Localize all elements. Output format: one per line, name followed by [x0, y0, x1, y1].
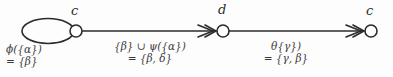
edge-label-2-line1: θ{γ}): [240, 40, 332, 52]
edge-label-1: {β} ∪ ψ({α}) = {β, δ}: [98, 40, 202, 65]
node-circle-c2[interactable]: [365, 25, 377, 37]
self-loop-label-line2: = {β}: [6, 55, 42, 67]
edge-label-2-line2: = {γ, β}: [240, 52, 332, 64]
self-loop-ellipse: [22, 19, 74, 44]
edge-label-2: θ{γ}) = {γ, β}: [240, 40, 332, 65]
edge-label-1-line1: {β} ∪ ψ({α}): [98, 40, 202, 52]
graph-svg: [0, 0, 393, 77]
self-loop-label-line1: ϕ({α}): [6, 43, 42, 55]
self-loop-label: ϕ({α}) = {β}: [6, 43, 42, 68]
node-label-d: d: [218, 3, 226, 16]
node-circle-d[interactable]: [217, 25, 229, 37]
node-label-c1: c: [71, 4, 78, 17]
edge-label-1-line2: = {β, δ}: [98, 52, 202, 64]
node-circle-c1[interactable]: [70, 25, 82, 37]
diagram-canvas: c d c ϕ({α}) = {β} {β} ∪ ψ({α}) = {β, δ}…: [0, 0, 393, 77]
node-label-c2: c: [366, 4, 373, 17]
